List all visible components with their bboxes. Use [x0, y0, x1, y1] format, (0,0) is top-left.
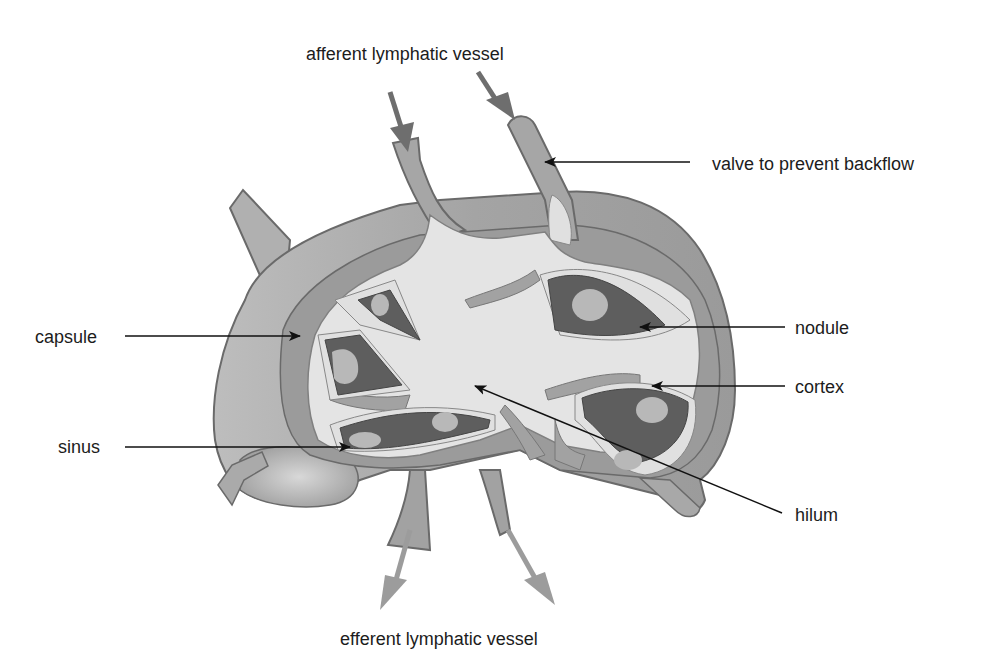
afferent-arrow-left: [390, 92, 402, 130]
arrow-head-icon: [486, 92, 515, 120]
germinal-center: [432, 412, 458, 432]
efferent-arrow-right: [508, 530, 535, 578]
germinal-center: [371, 294, 389, 316]
label-nodule: nodule: [795, 319, 849, 337]
efferent-vessels: [388, 470, 700, 550]
label-efferent-lymphatic-vessel: efferent lymphatic vessel: [340, 630, 538, 648]
label-sinus: sinus: [58, 438, 100, 456]
label-valve: valve to prevent backflow: [712, 155, 914, 173]
germinal-center: [572, 289, 608, 321]
label-afferent-lymphatic-vessel: afferent lymphatic vessel: [306, 45, 504, 63]
label-cortex: cortex: [795, 378, 844, 396]
germinal-center: [349, 432, 381, 448]
arrow-head-icon: [380, 575, 407, 610]
label-capsule: capsule: [35, 328, 97, 346]
afferent-flow-arrows: [390, 72, 515, 152]
germinal-center: [636, 397, 668, 423]
afferent-arrow-right: [478, 72, 496, 100]
arrow-head-icon: [524, 572, 555, 605]
efferent-flow-arrows: [380, 530, 555, 610]
label-hilum: hilum: [795, 506, 838, 524]
